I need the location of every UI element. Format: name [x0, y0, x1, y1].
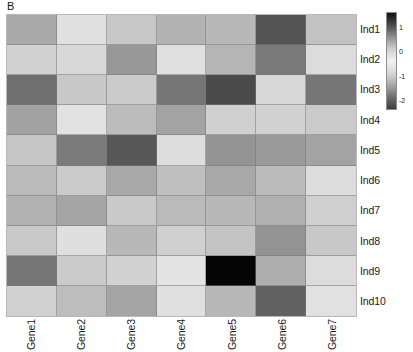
- heatmap-cell: [256, 196, 306, 226]
- heatmap-cell: [57, 166, 107, 196]
- heatmap-cell: [7, 135, 57, 165]
- heatmap-cell: [256, 75, 306, 105]
- heatmap-cell: [306, 45, 356, 75]
- heatmap-cell: [256, 135, 306, 165]
- heatmap-cell: [306, 166, 356, 196]
- column-label-gene5: Gene5: [207, 318, 257, 352]
- heatmap-cell: [7, 166, 57, 196]
- colorbar-tick: -1: [399, 72, 405, 79]
- heatmap-cell: [206, 166, 256, 196]
- heatmap-cell: [157, 15, 207, 45]
- heatmap-cell: [107, 196, 157, 226]
- heatmap-cell: [107, 105, 157, 135]
- column-label-gene1: Gene1: [6, 318, 56, 352]
- heatmap-cell: [7, 286, 57, 316]
- heatmap-cell: [57, 15, 107, 45]
- heatmap-cell: [206, 256, 256, 286]
- heatmap-cell: [7, 45, 57, 75]
- row-label-ind10: Ind10: [360, 287, 400, 317]
- column-label-gene2: Gene2: [56, 318, 106, 352]
- heatmap-cell: [306, 105, 356, 135]
- heatmap-cell: [306, 226, 356, 256]
- heatmap-cell: [157, 256, 207, 286]
- column-label-text: Gene5: [226, 319, 237, 350]
- colorbar-tick: 0: [399, 48, 403, 55]
- colorbar-tick-labels: 10-1-2: [398, 12, 413, 110]
- heatmap-figure: B Ind1Ind2Ind3Ind4Ind5Ind6Ind7Ind8Ind9In…: [0, 0, 413, 352]
- heatmap-cell: [157, 286, 207, 316]
- heatmap-cell: [57, 105, 107, 135]
- heatmap-cell: [7, 15, 57, 45]
- heatmap-cell: [256, 15, 306, 45]
- heatmap-cell: [306, 75, 356, 105]
- row-label-ind9: Ind9: [360, 256, 400, 286]
- heatmap-cell: [157, 226, 207, 256]
- heatmap-cell: [256, 256, 306, 286]
- colorbar-tick: 1: [399, 23, 403, 30]
- column-label-text: Gene1: [26, 319, 37, 350]
- heatmap-cell: [206, 45, 256, 75]
- column-label-text: Gene4: [176, 319, 187, 350]
- panel-label: B: [7, 1, 14, 12]
- heatmap-cell: [206, 105, 256, 135]
- heatmap-cell: [256, 286, 306, 316]
- heatmap-cell: [206, 15, 256, 45]
- heatmap-cell: [57, 135, 107, 165]
- heatmap-cell: [306, 256, 356, 286]
- column-label-gene4: Gene4: [156, 318, 206, 352]
- row-label-ind6: Ind6: [360, 165, 400, 195]
- heatmap-cell: [206, 286, 256, 316]
- heatmap-cell: [7, 75, 57, 105]
- heatmap-cell: [57, 45, 107, 75]
- column-label-text: Gene7: [326, 319, 337, 350]
- row-label-ind8: Ind8: [360, 226, 400, 256]
- heatmap-cell: [57, 286, 107, 316]
- heatmap-cell: [206, 135, 256, 165]
- heatmap-cell: [107, 256, 157, 286]
- heatmap-cell: [57, 226, 107, 256]
- heatmap-cell: [107, 226, 157, 256]
- heatmap-cell: [7, 105, 57, 135]
- heatmap-cell: [157, 135, 207, 165]
- column-label-text: Gene2: [76, 319, 87, 350]
- heatmap-cell: [256, 166, 306, 196]
- heatmap-cell: [57, 256, 107, 286]
- heatmap-cell: [7, 226, 57, 256]
- heatmap-cell: [107, 75, 157, 105]
- heatmap-cell: [256, 45, 306, 75]
- heatmap-cell: [206, 196, 256, 226]
- column-label-gene3: Gene3: [106, 318, 156, 352]
- heatmap-cell: [306, 15, 356, 45]
- heatmap-cell: [57, 75, 107, 105]
- heatmap-cell: [306, 286, 356, 316]
- colorbar-tick: -2: [399, 97, 405, 104]
- heatmap-cell: [306, 135, 356, 165]
- heatmap-cell: [7, 196, 57, 226]
- heatmap-cell: [107, 166, 157, 196]
- row-label-ind7: Ind7: [360, 196, 400, 226]
- row-label-ind5: Ind5: [360, 135, 400, 165]
- heatmap-cell: [107, 45, 157, 75]
- column-label-gene7: Gene7: [307, 318, 357, 352]
- colorbar-legend: 10-1-2: [386, 12, 413, 112]
- heatmap-cell: [107, 286, 157, 316]
- column-label-text: Gene3: [126, 319, 137, 350]
- heatmap-cell: [107, 15, 157, 45]
- heatmap-cell: [7, 256, 57, 286]
- heatmap-cell: [256, 226, 306, 256]
- heatmap-cell: [157, 166, 207, 196]
- column-axis-labels: Gene1Gene2Gene3Gene4Gene5Gene6Gene7: [6, 318, 357, 352]
- heatmap-cell: [256, 105, 306, 135]
- heatmap-cell: [157, 75, 207, 105]
- column-label-gene6: Gene6: [257, 318, 307, 352]
- heatmap-cell: [306, 196, 356, 226]
- heatmap-cell: [107, 135, 157, 165]
- heatmap-cell: [206, 226, 256, 256]
- heatmap-cell: [157, 45, 207, 75]
- heatmap-grid: [6, 14, 357, 317]
- heatmap-cell: [157, 196, 207, 226]
- heatmap-cell: [206, 75, 256, 105]
- heatmap-cell: [57, 196, 107, 226]
- colorbar-gradient: [386, 12, 397, 110]
- heatmap-cell: [157, 105, 207, 135]
